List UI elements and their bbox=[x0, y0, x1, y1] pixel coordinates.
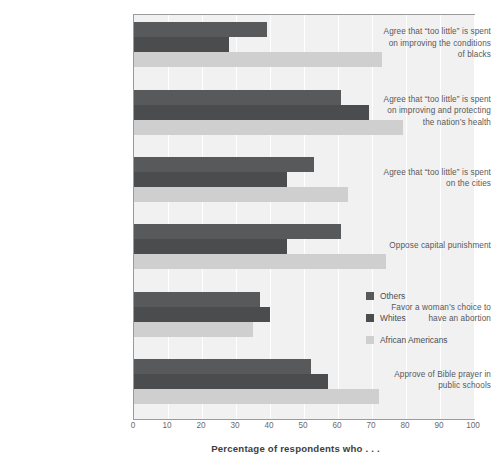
category-label-line: the nation’s health bbox=[365, 117, 491, 129]
x-tick-label: 10 bbox=[162, 421, 171, 430]
legend-label: Others bbox=[380, 291, 405, 301]
bar bbox=[134, 292, 260, 307]
x-tick-label: 20 bbox=[196, 421, 205, 430]
bar bbox=[134, 90, 341, 105]
category-label-line: of blacks bbox=[365, 49, 491, 61]
legend: OthersWhitesAfrican Americans bbox=[366, 288, 481, 354]
legend-item[interactable]: Whites bbox=[366, 310, 481, 326]
bars-layer bbox=[134, 15, 474, 419]
category-label: Approve of Bible prayer inpublic schools bbox=[365, 369, 491, 392]
category-label: Agree that “too little” is spenton the c… bbox=[365, 167, 491, 190]
gridline bbox=[474, 15, 475, 419]
x-tick-label: 100 bbox=[466, 421, 480, 430]
category-label: Agree that “too little” is spenton impro… bbox=[365, 94, 491, 129]
bar bbox=[134, 120, 403, 135]
plot-area bbox=[133, 14, 475, 420]
x-tick-label: 80 bbox=[400, 421, 409, 430]
x-tick-label: 60 bbox=[332, 421, 341, 430]
x-tick-label: 40 bbox=[264, 421, 273, 430]
bar bbox=[134, 322, 253, 337]
category-label-line: Approve of Bible prayer in bbox=[365, 369, 491, 381]
bar bbox=[134, 172, 287, 187]
bar bbox=[134, 105, 369, 120]
legend-label: African Americans bbox=[380, 335, 448, 345]
bar bbox=[134, 22, 267, 37]
bar bbox=[134, 389, 379, 404]
legend-swatch-icon bbox=[366, 292, 374, 300]
legend-item[interactable]: African Americans bbox=[366, 332, 481, 348]
legend-swatch-icon bbox=[366, 314, 374, 322]
bar-chart: Agree that “too little” is spenton impro… bbox=[0, 0, 491, 469]
category-label-line: Agree that “too little” is spent bbox=[365, 94, 491, 106]
bar bbox=[134, 239, 287, 254]
category-label: Agree that “too little” is spenton impro… bbox=[365, 26, 491, 61]
bar bbox=[134, 37, 229, 52]
category-label-line: Oppose capital punishment bbox=[365, 240, 491, 252]
x-tick-label: 70 bbox=[366, 421, 375, 430]
x-tick-label: 30 bbox=[230, 421, 239, 430]
bar bbox=[134, 254, 386, 269]
category-label-line: Agree that “too little” is spent bbox=[365, 167, 491, 179]
category-label-line: on improving the conditions bbox=[365, 38, 491, 50]
category-label: Oppose capital punishment bbox=[365, 240, 491, 252]
x-tick-label: 0 bbox=[131, 421, 136, 430]
legend-item[interactable]: Others bbox=[366, 288, 481, 304]
bar bbox=[134, 187, 348, 202]
bar bbox=[134, 224, 341, 239]
category-label-line: on improving and protecting bbox=[365, 105, 491, 117]
bar bbox=[134, 52, 382, 67]
x-tick-label: 50 bbox=[298, 421, 307, 430]
category-label-line: public schools bbox=[365, 380, 491, 392]
legend-label: Whites bbox=[380, 313, 406, 323]
x-axis-title: Percentage of respondents who . . . bbox=[0, 443, 491, 454]
bar bbox=[134, 374, 328, 389]
bar bbox=[134, 157, 314, 172]
category-label-line: on the cities bbox=[365, 178, 491, 190]
bar bbox=[134, 359, 311, 374]
x-axis-ticks: 0102030405060708090100 bbox=[133, 421, 474, 437]
legend-swatch-icon bbox=[366, 336, 374, 344]
bar bbox=[134, 307, 270, 322]
category-label-line: Agree that “too little” is spent bbox=[365, 26, 491, 38]
x-tick-label: 90 bbox=[434, 421, 443, 430]
